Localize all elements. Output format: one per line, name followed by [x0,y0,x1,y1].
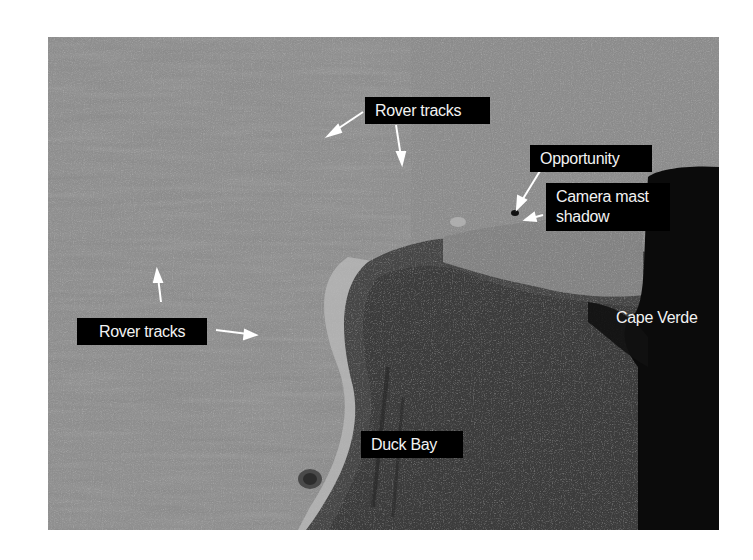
label-cape-verde: Cape Verde [606,304,708,331]
label-camera-mast-line2: shadow [556,207,660,227]
label-camera-mast-line1: Camera mast [556,187,660,207]
label-opportunity: Opportunity [530,145,652,172]
label-camera-mast-shadow: Camera mast shadow [546,183,670,231]
opportunity-rover [511,210,519,216]
label-duck-bay: Duck Bay [361,431,463,458]
label-rover-tracks-left: Rover tracks [77,318,207,345]
label-rover-tracks-top: Rover tracks [365,97,490,124]
